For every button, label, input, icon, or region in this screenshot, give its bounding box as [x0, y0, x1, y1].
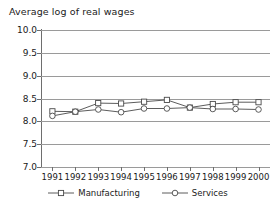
x-axis-tick-mark: [98, 167, 99, 171]
y-axis-tick-label: 9.0: [23, 71, 37, 81]
y-axis-tick-labels: 10.09.59.08.58.07.57.0: [4, 30, 37, 167]
legend-circle-marker-icon: [162, 188, 188, 198]
marker-square: [142, 99, 147, 104]
x-axis-tick-mark: [213, 167, 214, 171]
legend-label: Services: [192, 188, 228, 198]
marker-circle: [164, 106, 170, 112]
x-axis-tick-label: 1996: [156, 172, 178, 182]
x-axis-tick-label: 1994: [110, 172, 132, 182]
x-axis-tick-label: 1991: [42, 172, 64, 182]
x-axis-tick-label: 1998: [202, 172, 224, 182]
marker-circle: [256, 107, 262, 113]
y-axis-tick-label: 10.0: [17, 25, 37, 35]
marker-circle: [50, 113, 56, 119]
marker-square: [256, 100, 261, 105]
x-axis-tick-mark: [190, 167, 191, 171]
marker-circle: [96, 107, 102, 113]
marker-circle: [187, 105, 193, 111]
y-axis-tick-label: 9.5: [23, 48, 37, 58]
x-axis-tick-mark: [167, 167, 168, 171]
series-manufacturing: [50, 97, 261, 114]
marker-square: [164, 97, 169, 102]
marker-square: [233, 100, 238, 105]
marker-square: [119, 101, 124, 106]
legend-item-manufacturing[interactable]: Manufacturing: [48, 188, 140, 198]
x-axis-tick-mark: [259, 167, 260, 171]
y-axis-tick-label: 8.0: [23, 116, 37, 126]
chart-container: Average log of real wages 10.09.59.08.58…: [0, 0, 276, 207]
marker-circle: [118, 109, 124, 115]
chart-legend: ManufacturingServices: [0, 188, 276, 198]
marker-circle: [210, 106, 216, 112]
x-axis-tick-label: 1992: [64, 172, 86, 182]
series-services: [50, 105, 262, 119]
chart-title: Average log of real wages: [9, 6, 135, 17]
x-axis-tick-label: 1995: [133, 172, 155, 182]
legend-label: Manufacturing: [78, 188, 140, 198]
y-axis-tick-label: 7.5: [23, 139, 37, 149]
x-axis-tick-mark: [75, 167, 76, 171]
x-axis-tick-label: 2000: [248, 172, 270, 182]
x-axis-tick-mark: [144, 167, 145, 171]
x-axis-tick-mark: [236, 167, 237, 171]
data-series-layer: [41, 30, 270, 167]
y-axis-tick-label: 7.0: [23, 162, 37, 172]
x-axis-tick-labels: 1991199219931994199519961997199819992000: [41, 172, 270, 184]
x-axis-tick-mark: [52, 167, 53, 171]
marker-circle: [233, 106, 239, 112]
marker-square: [96, 101, 101, 106]
legend-square-marker-icon: [48, 188, 74, 198]
marker-circle: [73, 109, 79, 115]
legend-item-services[interactable]: Services: [162, 188, 228, 198]
marker-circle: [141, 106, 147, 112]
x-axis-tick-label: 1993: [87, 172, 109, 182]
x-axis-tick-mark: [121, 167, 122, 171]
series-line: [52, 100, 258, 112]
x-axis-tick-label: 1999: [225, 172, 247, 182]
y-axis-tick-label: 8.5: [23, 94, 37, 104]
x-axis-tick-label: 1997: [179, 172, 201, 182]
